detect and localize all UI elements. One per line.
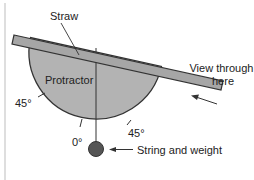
protractor-label: Protractor	[45, 74, 94, 86]
string-weight-arrow-icon	[109, 147, 133, 152]
straw-label: Straw	[50, 10, 78, 22]
tick-mark-0	[80, 119, 82, 127]
view-through-line1: View through	[189, 62, 253, 74]
string-weight-label: String and weight	[137, 144, 222, 156]
view-arrow-icon	[191, 95, 217, 105]
angle-label-45-left: 45°	[15, 97, 32, 109]
angle-label-45-right: 45°	[128, 127, 145, 139]
protractor-clinometer-diagram: Straw Protractor 45° 0° 45° View through…	[0, 0, 254, 180]
weight-circle	[89, 142, 104, 157]
angle-label-0: 0°	[72, 136, 83, 148]
view-through-line2: here	[212, 75, 234, 87]
tick-mark-45-right	[127, 120, 131, 125]
